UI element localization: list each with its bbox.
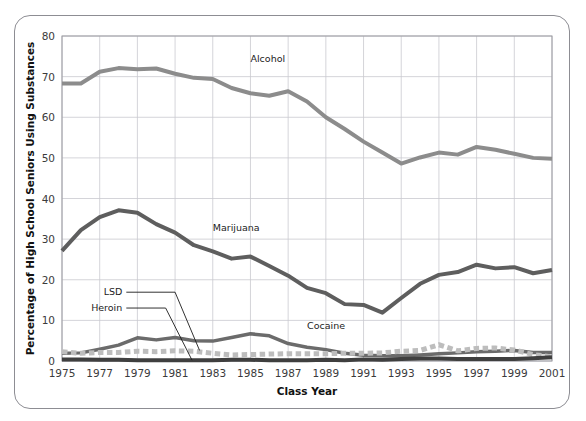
- x-tick-label: 1983: [199, 367, 226, 379]
- substance-use-line-chart: 0102030405060708019751977197919811983198…: [0, 0, 586, 421]
- x-tick-label: 1993: [388, 367, 415, 379]
- x-tick-label: 1989: [312, 367, 339, 379]
- series-label-heroin: Heroin: [91, 302, 122, 313]
- series-label-marijuana: Marijuana: [213, 222, 260, 233]
- x-tick-label: 1985: [237, 367, 264, 379]
- series-label-lsd: LSD: [104, 286, 123, 297]
- x-tick-label: 1991: [350, 367, 377, 379]
- y-tick-label: 70: [42, 71, 55, 83]
- y-tick-label: 40: [42, 193, 55, 205]
- x-axis-title: Class Year: [277, 385, 338, 397]
- x-tick-label: 2001: [539, 367, 566, 379]
- y-tick-label: 20: [42, 274, 55, 286]
- x-tick-label: 1987: [275, 367, 302, 379]
- y-axis-tick-labels: 01020304050607080: [42, 30, 55, 367]
- x-tick-label: 1977: [86, 367, 113, 379]
- series-label-alcohol: Alcohol: [250, 53, 285, 64]
- x-tick-label: 1995: [426, 367, 453, 379]
- x-tick-label: 1997: [463, 367, 490, 379]
- y-tick-label: 80: [42, 30, 55, 42]
- y-tick-label: 0: [48, 355, 55, 367]
- x-tick-label: 1975: [49, 367, 76, 379]
- y-tick-label: 10: [42, 314, 55, 326]
- y-tick-label: 30: [42, 233, 55, 245]
- x-tick-label: 1999: [501, 367, 528, 379]
- chart-figure: 0102030405060708019751977197919811983198…: [0, 0, 586, 421]
- series-label-cocaine: Cocaine: [307, 320, 345, 331]
- x-axis-tick-labels: 1975197719791981198319851987198919911993…: [49, 367, 566, 379]
- y-tick-label: 50: [42, 152, 55, 164]
- x-tick-label: 1981: [162, 367, 189, 379]
- x-tick-label: 1979: [124, 367, 151, 379]
- y-axis-title: Percentage of High School Seniors Using …: [24, 42, 36, 356]
- y-tick-label: 60: [42, 111, 55, 123]
